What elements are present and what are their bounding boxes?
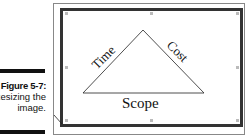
triangle-diagram: Time Cost Scope (0, 0, 251, 140)
label-scope: Scope (122, 95, 159, 111)
label-cost: Cost (164, 38, 192, 66)
label-time: Time (89, 42, 119, 72)
